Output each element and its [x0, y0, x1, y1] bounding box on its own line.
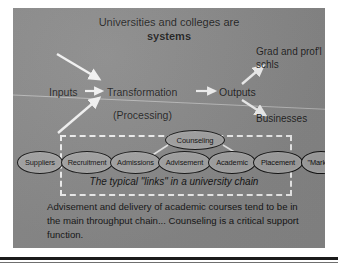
slide-panel: Universities and colleges are systems [13, 8, 325, 248]
flow-label-outputs: Outputs [219, 86, 256, 98]
chain-node-suppliers: Suppliers [17, 151, 63, 174]
chain-node-admissions: Admissions [110, 151, 161, 174]
chain-node-placement: Placement [253, 151, 303, 174]
page-root: Universities and colleges are systems [0, 0, 338, 268]
flow-label-processing: (Processing) [113, 109, 172, 121]
slide-title-line-1: Universities and colleges are [13, 16, 325, 29]
flow-label-businesses: Businesses [256, 113, 307, 125]
slide-footer-text: Advisement and delivery of academic cour… [47, 200, 305, 242]
chain-node-academic: Academic [208, 151, 256, 174]
chain-node-advisement: Advisement [158, 151, 211, 174]
chain-node-counseling: Counseling [165, 130, 225, 150]
arrow-upper-input [57, 54, 99, 79]
slide-title-line-2: systems [13, 30, 325, 43]
flow-label-inputs: Inputs [49, 86, 78, 98]
arrow-lower-input [58, 98, 99, 133]
chain-caption: The typical "links" in a university chai… [60, 176, 288, 187]
flow-label-grad-schools: Grad and prof'l schls [256, 46, 322, 71]
flow-label-transformation: Transformation [107, 86, 177, 98]
chain-node-market: "Market" [301, 151, 325, 174]
chain-node-recruitment: Recruitment [61, 151, 113, 174]
page-bottom-rule [0, 257, 338, 260]
page-bottom-rule-secondary [0, 262, 338, 263]
